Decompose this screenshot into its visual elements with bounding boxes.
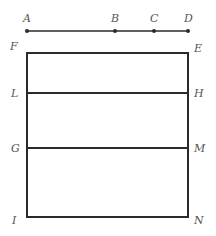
label-c: C: [150, 12, 159, 25]
label-b: B: [110, 12, 119, 25]
geometry-diagram: A B C D F E L H G M I N: [0, 0, 216, 236]
label-m: M: [193, 142, 206, 155]
label-f: F: [9, 40, 18, 53]
point-d-dot: [186, 29, 190, 33]
rectangle-feni: [27, 53, 188, 217]
label-a: A: [22, 12, 31, 25]
label-l: L: [10, 87, 18, 100]
label-e: E: [193, 42, 202, 55]
point-b-dot: [113, 29, 117, 33]
point-c-dot: [152, 29, 156, 33]
label-d: D: [183, 12, 193, 25]
label-n: N: [193, 214, 204, 227]
label-i: I: [11, 214, 17, 227]
label-g: G: [11, 142, 20, 155]
point-a-dot: [25, 29, 29, 33]
label-h: H: [193, 87, 204, 100]
